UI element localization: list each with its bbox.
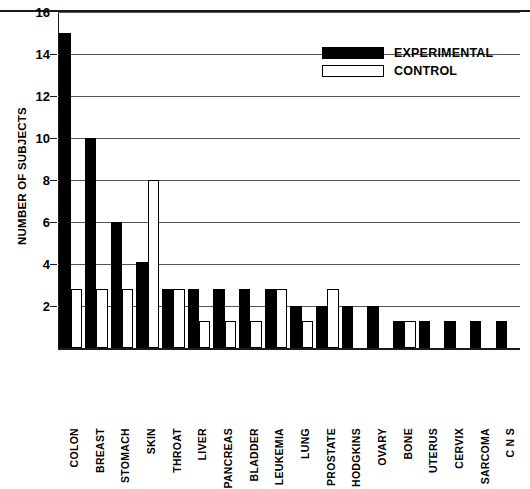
bar-control-bladder <box>250 321 261 348</box>
legend-item-experimental: EXPERIMENTAL <box>322 45 522 61</box>
bar-control-liver <box>199 321 210 348</box>
legend-label-experimental: EXPERIMENTAL <box>394 46 493 60</box>
legend-label-control: CONTROL <box>394 64 457 78</box>
bar-experimental-pancreas <box>213 289 224 348</box>
legend-swatch-experimental-icon <box>322 47 384 59</box>
bar-control-bone <box>404 321 415 348</box>
x-axis-label-ovary: OVARY <box>376 428 388 466</box>
x-axis-label-leukemia: LEUKEMIA <box>273 428 285 485</box>
bar-experimental-sarcoma <box>470 321 481 348</box>
y-tick-mark-4 <box>50 264 57 265</box>
legend-item-control: CONTROL <box>322 63 522 79</box>
bar-control-skin <box>148 180 159 348</box>
bar-experimental-hodgkins <box>342 306 353 348</box>
bar-experimental-liver <box>188 289 199 348</box>
bar-experimental-bone <box>393 321 404 348</box>
x-axis-label-skin: SKIN <box>145 428 157 454</box>
bar-experimental-cervix <box>444 321 455 348</box>
bar-experimental-colon <box>59 33 70 348</box>
x-axis-label-lung: LUNG <box>299 428 311 459</box>
bar-control-pancreas <box>225 321 236 348</box>
x-axis-label-bladder: BLADDER <box>248 428 260 481</box>
bar-experimental-prostate <box>316 306 327 348</box>
x-axis-label-stomach: STOMACH <box>119 428 131 483</box>
x-axis-label-c-n-s: C N S <box>504 428 516 458</box>
bar-experimental-breast <box>85 138 96 348</box>
x-axis-label-pancreas: PANCREAS <box>222 428 234 489</box>
y-tick-mark-2 <box>50 306 57 307</box>
bar-control-throat <box>173 289 184 348</box>
x-axis-category-labels: COLONBREASTSTOMACHSKINTHROATLIVERPANCREA… <box>58 352 520 430</box>
x-axis-label-cervix: CERVIX <box>453 428 465 469</box>
y-tick-label-10: 10 <box>36 132 50 145</box>
bar-experimental-throat <box>162 289 173 348</box>
chart-legend: EXPERIMENTAL CONTROL <box>322 45 522 81</box>
legend-swatch-control-icon <box>322 65 384 77</box>
bar-control-lung <box>302 321 313 348</box>
x-axis-label-liver: LIVER <box>196 428 208 460</box>
y-tick-label-2: 2 <box>43 300 50 313</box>
y-tick-mark-10 <box>50 138 57 139</box>
y-tick-mark-8 <box>50 180 57 181</box>
bar-control-prostate <box>327 289 338 348</box>
bar-experimental-skin <box>136 262 147 348</box>
y-tick-label-14: 14 <box>36 48 50 61</box>
bar-control-stomach <box>122 289 133 348</box>
y-tick-label-16: 16 <box>36 6 50 19</box>
x-axis-label-uterus: UTERUS <box>427 428 439 473</box>
x-axis-baseline <box>58 348 520 350</box>
y-tick-mark-6 <box>50 222 57 223</box>
y-tick-label-6: 6 <box>43 216 50 229</box>
bar-experimental-uterus <box>419 321 430 348</box>
bar-experimental-leukemia <box>265 289 276 348</box>
bar-experimental-bladder <box>239 289 250 348</box>
y-axis-title: NUMBER OF SUBJECTS <box>16 66 28 286</box>
bar-experimental-stomach <box>111 222 122 348</box>
x-axis-label-sarcoma: SARCOMA <box>479 428 491 484</box>
bar-control-colon <box>71 289 82 348</box>
y-tick-label-4: 4 <box>43 258 50 271</box>
x-axis-label-throat: THROAT <box>171 428 183 473</box>
bar-control-breast <box>96 289 107 348</box>
x-axis-label-bone: BONE <box>402 428 414 460</box>
y-tick-mark-12 <box>50 96 57 97</box>
x-axis-label-colon: COLON <box>68 428 80 467</box>
y-tick-mark-14 <box>50 54 57 55</box>
bar-experimental-c-n-s <box>496 321 507 348</box>
y-tick-label-8: 8 <box>43 174 50 187</box>
y-tick-label-12: 12 <box>36 90 50 103</box>
bar-experimental-lung <box>290 306 301 348</box>
bar-control-leukemia <box>276 289 287 348</box>
x-axis-label-breast: BREAST <box>94 428 106 473</box>
bar-experimental-ovary <box>367 306 378 348</box>
x-axis-label-hodgkins: HODGKINS <box>350 428 362 487</box>
x-axis-label-prostate: PROSTATE <box>325 428 337 486</box>
